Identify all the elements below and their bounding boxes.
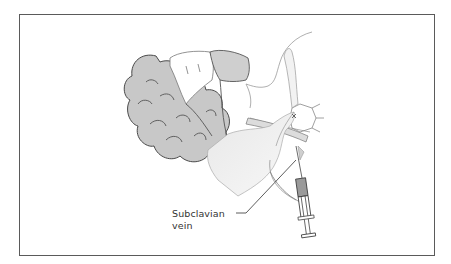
chin-cover bbox=[210, 50, 249, 81]
neck-muscle bbox=[284, 49, 298, 108]
label-line-2: vein bbox=[172, 220, 225, 232]
subclavian-catheterization-illustration bbox=[0, 0, 451, 264]
label-line-1: Subclavian bbox=[172, 208, 225, 220]
sternal-notch bbox=[290, 104, 324, 132]
subclavian-vein-label: Subclavian vein bbox=[172, 208, 225, 232]
syringe bbox=[293, 177, 317, 238]
needle-shadow bbox=[298, 146, 304, 160]
